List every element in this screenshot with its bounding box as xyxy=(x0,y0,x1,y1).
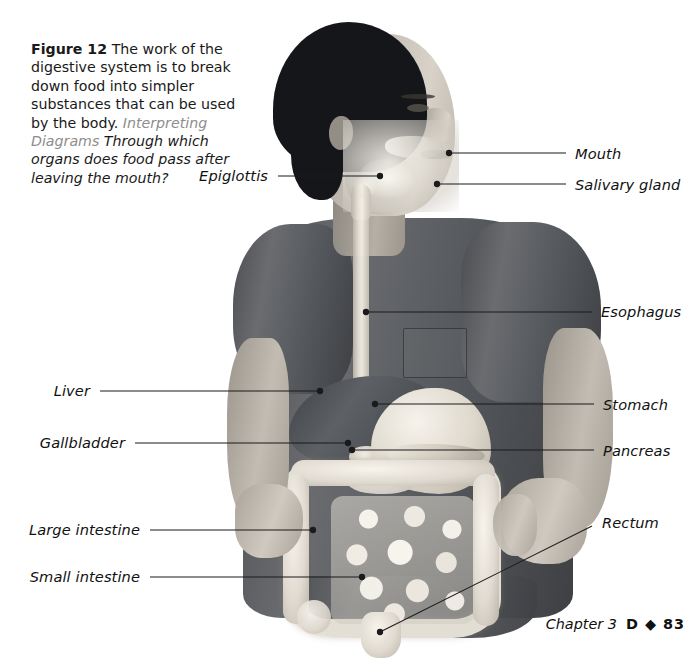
digestive-system-figure: Figure 12 The work of the digestive syst… xyxy=(0,0,697,666)
label-stomach: Stomach xyxy=(603,396,668,413)
label-mouth: Mouth xyxy=(575,145,621,162)
figure-number: Figure 12 xyxy=(31,41,107,57)
label-small-intestine: Small intestine xyxy=(0,568,140,585)
label-esophagus: Esophagus xyxy=(601,303,681,320)
page-footer: Chapter 3 D ◆ 83 xyxy=(546,616,685,632)
chapter-label: Chapter 3 xyxy=(546,616,617,632)
label-pancreas: Pancreas xyxy=(603,442,670,459)
label-epiglottis: Epiglottis xyxy=(113,167,268,184)
page-number: D ◆ 83 xyxy=(626,616,685,632)
label-rectum: Rectum xyxy=(602,514,659,531)
label-salivary-gland: Salivary gland xyxy=(575,176,680,193)
label-liver: Liver xyxy=(0,382,90,399)
figure-caption: Figure 12 The work of the digestive syst… xyxy=(31,40,243,187)
label-large-intestine: Large intestine xyxy=(0,521,140,538)
label-gallbladder: Gallbladder xyxy=(0,434,125,451)
